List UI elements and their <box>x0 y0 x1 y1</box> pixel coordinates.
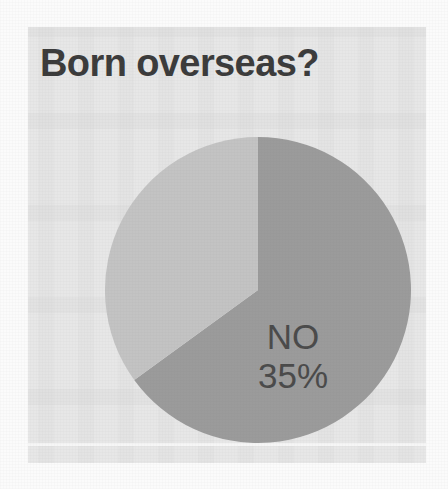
pie-chart: NO 35% YES 65% <box>105 137 411 443</box>
pie-label-no-value: 35% <box>233 356 353 395</box>
pie-label-no: NO 35% <box>233 317 353 395</box>
scanned-page: Born overseas? NO 35% YES 65% <box>0 0 448 489</box>
pie-label-yes-name: YES <box>371 455 426 463</box>
infographic-card: Born overseas? NO 35% YES 65% <box>28 27 426 463</box>
pie-label-yes: YES 65% <box>341 455 426 463</box>
pie-label-no-name: NO <box>267 317 320 356</box>
card-divider-rule <box>28 443 426 446</box>
pie-chart-svg <box>105 137 411 443</box>
page-title: Born overseas? <box>40 44 319 82</box>
